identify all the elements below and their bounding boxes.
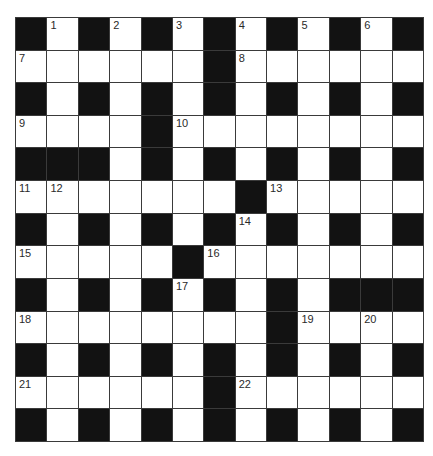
answer-cell[interactable] <box>330 377 360 409</box>
answer-cell[interactable] <box>47 116 77 148</box>
answer-cell[interactable] <box>393 181 423 213</box>
answer-cell[interactable] <box>110 116 140 148</box>
answer-cell[interactable] <box>142 377 172 409</box>
answer-cell[interactable] <box>330 246 360 278</box>
answer-cell[interactable] <box>173 51 203 83</box>
answer-cell[interactable] <box>173 312 203 344</box>
answer-cell[interactable] <box>361 116 391 148</box>
answer-cell[interactable] <box>267 377 297 409</box>
answer-cell[interactable] <box>173 83 203 115</box>
answer-cell[interactable] <box>173 344 203 376</box>
answer-cell[interactable] <box>142 312 172 344</box>
answer-cell[interactable] <box>110 148 140 180</box>
answer-cell[interactable] <box>236 409 266 441</box>
answer-cell[interactable] <box>393 377 423 409</box>
answer-cell[interactable] <box>330 116 360 148</box>
answer-cell[interactable] <box>173 409 203 441</box>
answer-cell[interactable] <box>110 312 140 344</box>
answer-cell[interactable] <box>47 279 77 311</box>
answer-cell[interactable] <box>267 116 297 148</box>
answer-cell[interactable]: 21 <box>16 377 46 409</box>
answer-cell[interactable] <box>330 312 360 344</box>
answer-cell[interactable]: 4 <box>236 18 266 50</box>
answer-cell[interactable]: 20 <box>361 312 391 344</box>
answer-cell[interactable]: 6 <box>361 18 391 50</box>
answer-cell[interactable] <box>110 409 140 441</box>
answer-cell[interactable]: 19 <box>298 312 328 344</box>
answer-cell[interactable]: 1 <box>47 18 77 50</box>
answer-cell[interactable]: 17 <box>173 279 203 311</box>
answer-cell[interactable] <box>393 312 423 344</box>
answer-cell[interactable] <box>204 181 234 213</box>
answer-cell[interactable]: 2 <box>110 18 140 50</box>
answer-cell[interactable] <box>236 312 266 344</box>
answer-cell[interactable] <box>173 377 203 409</box>
answer-cell[interactable]: 18 <box>16 312 46 344</box>
answer-cell[interactable] <box>110 246 140 278</box>
answer-cell[interactable] <box>393 246 423 278</box>
answer-cell[interactable] <box>298 116 328 148</box>
answer-cell[interactable] <box>79 181 109 213</box>
answer-cell[interactable] <box>361 51 391 83</box>
answer-cell[interactable] <box>110 214 140 246</box>
answer-cell[interactable] <box>79 51 109 83</box>
answer-cell[interactable] <box>393 116 423 148</box>
answer-cell[interactable] <box>361 83 391 115</box>
answer-cell[interactable]: 15 <box>16 246 46 278</box>
answer-cell[interactable] <box>47 377 77 409</box>
answer-cell[interactable] <box>47 246 77 278</box>
answer-cell[interactable]: 10 <box>173 116 203 148</box>
answer-cell[interactable] <box>142 51 172 83</box>
answer-cell[interactable] <box>361 377 391 409</box>
answer-cell[interactable] <box>47 409 77 441</box>
answer-cell[interactable]: 11 <box>16 181 46 213</box>
answer-cell[interactable]: 13 <box>267 181 297 213</box>
answer-cell[interactable] <box>79 377 109 409</box>
answer-cell[interactable] <box>173 214 203 246</box>
answer-cell[interactable] <box>361 214 391 246</box>
answer-cell[interactable] <box>236 116 266 148</box>
answer-cell[interactable] <box>267 246 297 278</box>
answer-cell[interactable] <box>298 181 328 213</box>
answer-cell[interactable] <box>110 279 140 311</box>
answer-cell[interactable]: 5 <box>298 18 328 50</box>
answer-cell[interactable] <box>361 246 391 278</box>
answer-cell[interactable] <box>47 344 77 376</box>
answer-cell[interactable] <box>236 148 266 180</box>
answer-cell[interactable] <box>298 279 328 311</box>
answer-cell[interactable]: 12 <box>47 181 77 213</box>
answer-cell[interactable] <box>110 377 140 409</box>
answer-cell[interactable] <box>361 344 391 376</box>
answer-cell[interactable] <box>47 214 77 246</box>
answer-cell[interactable]: 16 <box>204 246 234 278</box>
answer-cell[interactable] <box>110 83 140 115</box>
answer-cell[interactable]: 8 <box>236 51 266 83</box>
answer-cell[interactable] <box>204 312 234 344</box>
answer-cell[interactable] <box>298 83 328 115</box>
answer-cell[interactable] <box>236 344 266 376</box>
answer-cell[interactable] <box>173 181 203 213</box>
answer-cell[interactable] <box>79 116 109 148</box>
answer-cell[interactable] <box>298 51 328 83</box>
answer-cell[interactable] <box>142 181 172 213</box>
answer-cell[interactable]: 7 <box>16 51 46 83</box>
answer-cell[interactable] <box>361 148 391 180</box>
answer-cell[interactable] <box>236 83 266 115</box>
answer-cell[interactable] <box>204 116 234 148</box>
answer-cell[interactable] <box>142 246 172 278</box>
answer-cell[interactable] <box>330 181 360 213</box>
answer-cell[interactable]: 3 <box>173 18 203 50</box>
answer-cell[interactable] <box>79 246 109 278</box>
answer-cell[interactable] <box>110 181 140 213</box>
answer-cell[interactable] <box>298 148 328 180</box>
answer-cell[interactable] <box>361 181 391 213</box>
answer-cell[interactable] <box>47 312 77 344</box>
answer-cell[interactable] <box>236 279 266 311</box>
answer-cell[interactable]: 22 <box>236 377 266 409</box>
answer-cell[interactable] <box>267 51 297 83</box>
answer-cell[interactable] <box>298 344 328 376</box>
answer-cell[interactable] <box>47 51 77 83</box>
answer-cell[interactable] <box>298 377 328 409</box>
answer-cell[interactable] <box>236 246 266 278</box>
answer-cell[interactable] <box>393 51 423 83</box>
